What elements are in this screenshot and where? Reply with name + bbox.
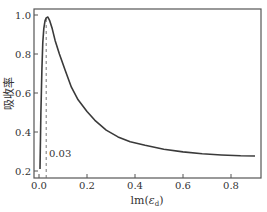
y-tick-label: 0.2 xyxy=(15,166,31,177)
x-tick-label: 0.8 xyxy=(223,180,239,191)
x-tick-label: 0.2 xyxy=(79,180,95,191)
y-axis-label: 吸收率 xyxy=(2,77,16,110)
absorption-chart: 0.00.20.40.60.8 0.20.40.60.81.0 0.03 lm(… xyxy=(0,0,267,212)
x-tick-label: 0.0 xyxy=(31,180,47,191)
x-axis-label: lm(εd) xyxy=(131,194,164,208)
y-tick-label: 0.4 xyxy=(15,127,31,138)
x-axis-ticks: 0.00.20.40.60.8 xyxy=(31,174,239,191)
absorption-curve xyxy=(40,17,255,169)
peak-position-label: 0.03 xyxy=(49,148,71,159)
y-tick-label: 1.0 xyxy=(15,10,31,21)
x-tick-label: 0.6 xyxy=(175,180,191,191)
y-tick-label: 0.6 xyxy=(15,88,31,99)
y-tick-label: 0.8 xyxy=(15,49,31,60)
x-tick-label: 0.4 xyxy=(127,180,143,191)
